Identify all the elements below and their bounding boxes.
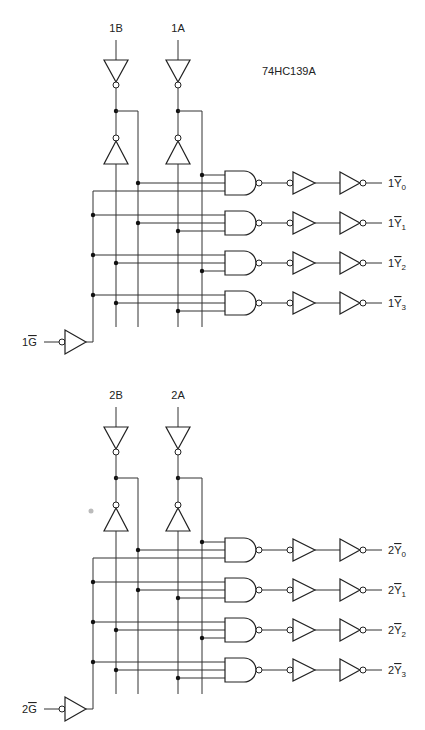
output-inverter-icon [340, 292, 360, 314]
output-buffer-icon [293, 539, 315, 561]
junction-dot [114, 261, 118, 265]
enable-label: 2G [22, 703, 37, 715]
decoder-2: 2B2A2G2Y02Y12Y22Y3 [22, 389, 406, 721]
inversion-bubble [287, 300, 293, 306]
junction-dot [91, 580, 95, 584]
inversion-bubble [287, 587, 293, 593]
output-inverter-icon [340, 579, 360, 601]
enable-buffer-icon [65, 697, 86, 721]
inversion-bubble [360, 180, 366, 186]
input-label-a: 2A [171, 389, 185, 401]
inversion-bubble [360, 627, 366, 633]
output-subscript: 3 [401, 303, 406, 312]
inversion-bubble [360, 667, 366, 673]
output-buffer-icon [293, 659, 315, 681]
inversion-bubble [256, 220, 262, 226]
junction-dot [176, 596, 180, 600]
junction-dot [91, 253, 95, 257]
output-inverter-icon [340, 659, 360, 681]
chip-title: 74HC139A [262, 65, 316, 77]
output-buffer-icon [293, 292, 315, 314]
nand-gate-icon [225, 171, 256, 195]
input-inverter-b-icon [104, 427, 128, 449]
junction-dot [136, 221, 140, 225]
nand-gate-icon [225, 291, 256, 315]
inversion-bubble [360, 587, 366, 593]
junction-dot [176, 309, 180, 313]
inversion-bubble [287, 260, 293, 266]
inversion-bubble [256, 547, 262, 553]
nand-gate-icon [225, 618, 256, 642]
input-label-b: 2B [109, 389, 122, 401]
input-inverter-a-icon [166, 60, 190, 82]
inversion-bubble [287, 220, 293, 226]
output-buffer-icon [293, 252, 315, 274]
inversion-bubble [360, 300, 366, 306]
output-label-1y3: 1Y3 [388, 297, 406, 312]
input-label-a: 1A [171, 22, 185, 34]
junction-dot [91, 660, 95, 664]
junction-dot [176, 229, 180, 233]
junction-dot [114, 668, 118, 672]
junction-dot [91, 293, 95, 297]
output-inverter-icon [340, 619, 360, 641]
output-inverter-icon [340, 212, 360, 234]
inversion-bubble [287, 627, 293, 633]
junction-dot [91, 620, 95, 624]
output-subscript: 1 [401, 223, 406, 232]
inversion-bubble [113, 82, 119, 88]
output-inverter-icon [340, 539, 360, 561]
input-inverter-b-icon [104, 60, 128, 82]
inversion-bubble [287, 180, 293, 186]
nand-gate-icon [225, 538, 256, 562]
inversion-bubble [59, 339, 65, 345]
junction-dot [200, 173, 204, 177]
logic-diagram: 74HC139A 1B1A1G1Y01Y11Y21Y3 2B2A2G2Y02Y1… [0, 0, 425, 730]
inversion-bubble [175, 449, 181, 455]
nand-gate-icon [225, 658, 256, 682]
output-subscript: 2 [401, 630, 406, 639]
output-buffer-icon [293, 172, 315, 194]
inversion-bubble [256, 667, 262, 673]
inversion-bubble [175, 82, 181, 88]
output-subscript: 0 [401, 183, 406, 192]
junction-dot [200, 540, 204, 544]
inversion-bubble [360, 547, 366, 553]
junction-dot [114, 301, 118, 305]
inversion-bubble [287, 547, 293, 553]
junction-dot [176, 676, 180, 680]
output-subscript: 1 [401, 590, 406, 599]
enable-label: 1G [22, 336, 37, 348]
enable-buffer-icon [65, 330, 86, 354]
buffer-inverter-a-icon [166, 508, 190, 531]
buffer-inverter-a-icon [166, 141, 190, 164]
buffer-inverter-b-icon [104, 141, 128, 164]
inversion-bubble [256, 627, 262, 633]
enable-label-name: G [28, 703, 37, 715]
output-label-2y1: 2Y1 [388, 584, 406, 599]
output-subscript: 0 [401, 550, 406, 559]
output-label-2y0: 2Y0 [388, 544, 406, 559]
enable-label-name: G [28, 336, 37, 348]
inversion-bubble [59, 706, 65, 712]
output-label-1y1: 1Y1 [388, 217, 406, 232]
output-label-2y2: 2Y2 [388, 624, 406, 639]
nand-gate-icon [225, 211, 256, 235]
output-subscript: 2 [401, 263, 406, 272]
junction-dot [91, 213, 95, 217]
input-label-b: 1B [109, 22, 122, 34]
inversion-bubble [287, 667, 293, 673]
output-buffer-icon [293, 212, 315, 234]
inversion-bubble [360, 260, 366, 266]
inversion-bubble [360, 220, 366, 226]
junction-dot [136, 588, 140, 592]
output-inverter-icon [340, 172, 360, 194]
junction-dot [200, 636, 204, 640]
output-buffer-icon [293, 579, 315, 601]
inversion-bubble [256, 587, 262, 593]
output-label-2y3: 2Y3 [388, 664, 406, 679]
buffer-inverter-b-icon [104, 508, 128, 531]
nand-gate-icon [225, 251, 256, 275]
output-subscript: 3 [401, 670, 406, 679]
junction-dot [136, 181, 140, 185]
